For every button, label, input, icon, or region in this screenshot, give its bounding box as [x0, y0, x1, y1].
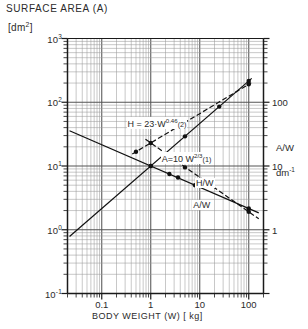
- series-annotation-label: H = 23·W0.46(2): [127, 117, 188, 129]
- series-point-4[interactable]: [149, 141, 153, 145]
- series-point-3[interactable]: [176, 175, 180, 179]
- series-point-4[interactable]: [183, 165, 187, 169]
- series-point-1[interactable]: [217, 104, 221, 108]
- plot-canvas: [0, 0, 308, 329]
- series-point-2[interactable]: [247, 82, 251, 86]
- series-point-3[interactable]: [149, 164, 153, 168]
- series-point-1[interactable]: [183, 134, 187, 138]
- chart-figure: SURFACE AREA (A) [dm2] 10-1100101102103 …: [0, 0, 308, 329]
- series-annotation-label: A=10 W2/3(1): [161, 152, 213, 164]
- series-point-3[interactable]: [167, 172, 171, 176]
- series-line-3: [70, 131, 259, 213]
- series-point-2[interactable]: [134, 150, 138, 154]
- series-annotation-label: H/W: [195, 178, 215, 188]
- series-point-4[interactable]: [247, 209, 251, 213]
- series-annotation-label: A/W: [192, 200, 211, 210]
